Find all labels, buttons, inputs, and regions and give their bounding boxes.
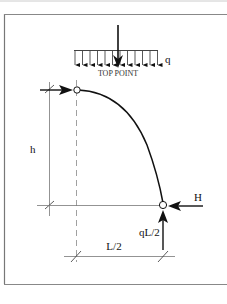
resultant-arrow xyxy=(113,25,123,68)
support-hinge-icon xyxy=(159,201,166,208)
load-label-q: q xyxy=(165,53,171,65)
top-horizontal-force-arrow xyxy=(40,85,73,95)
half-span-label: L/2 xyxy=(106,240,121,252)
arch-diagram: q TOP POINT h L/2 H qL/2 xyxy=(0,0,227,304)
height-label: h xyxy=(30,143,36,155)
height-dimension xyxy=(45,82,54,216)
half-span-dimension xyxy=(64,251,175,262)
top-point-label: TOP POINT xyxy=(98,69,138,78)
vertical-reaction-label: qL/2 xyxy=(139,226,160,238)
arch-curve xyxy=(78,90,163,203)
horizontal-reaction-label: H xyxy=(194,191,202,203)
top-hinge-icon xyxy=(74,87,80,93)
